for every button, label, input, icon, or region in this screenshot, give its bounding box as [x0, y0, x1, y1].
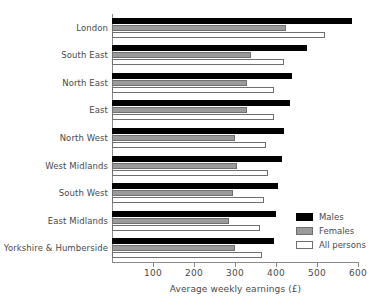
- bar-all-persons: [112, 252, 262, 258]
- bar-males: [112, 156, 282, 162]
- x-axis-tick-label: 100: [133, 268, 173, 278]
- bar-males: [112, 18, 352, 24]
- category-label: Yorkshire & Humberside: [0, 243, 108, 253]
- x-axis-tick: [317, 262, 318, 267]
- x-axis-tick: [276, 262, 277, 267]
- bar-males: [112, 128, 284, 134]
- legend-item-males: Males: [296, 210, 382, 223]
- chart-legend: Males Females All persons: [296, 210, 382, 252]
- males-swatch-icon: [296, 213, 313, 221]
- bar-females: [112, 52, 251, 58]
- x-axis-tick-label: 400: [256, 268, 296, 278]
- bar-males: [112, 73, 292, 79]
- x-axis-tick-label: 500: [297, 268, 337, 278]
- bar-all-persons: [112, 32, 325, 38]
- bar-females: [112, 245, 235, 251]
- bar-all-persons: [112, 87, 274, 93]
- x-axis-tick: [235, 262, 236, 267]
- legend-item-females: Females: [296, 224, 382, 237]
- bar-all-persons: [112, 225, 260, 231]
- category-label: East Midlands: [0, 216, 108, 226]
- x-axis-title: Average weekly earnings (£): [112, 284, 359, 294]
- category-label: South East: [0, 50, 108, 60]
- category-label: North West: [0, 133, 108, 143]
- legend-item-all-persons: All persons: [296, 238, 382, 251]
- legend-label-males: Males: [319, 212, 344, 222]
- category-label: London: [0, 23, 108, 33]
- bar-males: [112, 238, 274, 244]
- bar-all-persons: [112, 142, 266, 148]
- bar-males: [112, 100, 290, 106]
- x-axis-tick-label: 600: [338, 268, 378, 278]
- x-axis-tick: [194, 262, 195, 267]
- bar-females: [112, 218, 229, 224]
- bar-females: [112, 80, 247, 86]
- females-swatch-icon: [296, 227, 313, 235]
- bar-all-persons: [112, 59, 284, 65]
- all-persons-swatch-icon: [296, 241, 313, 249]
- bar-females: [112, 107, 247, 113]
- bar-all-persons: [112, 197, 264, 203]
- category-label: South West: [0, 188, 108, 198]
- bar-females: [112, 25, 286, 31]
- legend-label-all-persons: All persons: [319, 240, 366, 250]
- x-axis-tick: [153, 262, 154, 267]
- bar-females: [112, 135, 235, 141]
- x-axis-tick-label: 200: [174, 268, 214, 278]
- bar-all-persons: [112, 114, 274, 120]
- bar-females: [112, 190, 233, 196]
- bar-males: [112, 211, 276, 217]
- bar-chart: 100200300400500600 LondonSouth EastNorth…: [0, 0, 383, 306]
- category-label: West Midlands: [0, 161, 108, 171]
- bar-males: [112, 45, 307, 51]
- legend-label-females: Females: [319, 226, 354, 236]
- bar-all-persons: [112, 170, 268, 176]
- x-axis-tick: [358, 262, 359, 267]
- x-axis-tick-label: 300: [215, 268, 255, 278]
- category-label: East: [0, 105, 108, 115]
- bar-females: [112, 163, 237, 169]
- bar-males: [112, 183, 278, 189]
- category-label: North East: [0, 78, 108, 88]
